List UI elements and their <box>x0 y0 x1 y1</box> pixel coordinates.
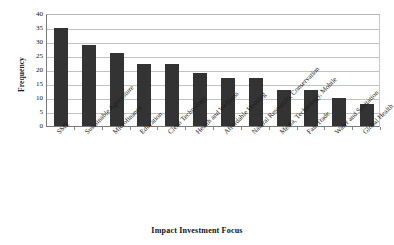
x-tick-mark <box>130 127 131 130</box>
x-tick-mark <box>380 127 381 130</box>
bar[interactable] <box>165 64 179 126</box>
x-tick-mark <box>157 127 158 130</box>
y-tick-label: 5 <box>25 109 43 116</box>
y-tick-label: 40 <box>25 11 43 18</box>
bar[interactable] <box>82 45 96 126</box>
y-tick-label: 35 <box>25 25 43 32</box>
y-tick-label: 15 <box>25 81 43 88</box>
x-tick-mark <box>297 127 298 130</box>
y-tick-label: 10 <box>25 95 43 102</box>
x-tick-mark <box>324 127 325 130</box>
y-tick-label: 30 <box>25 39 43 46</box>
x-tick-mark <box>241 127 242 130</box>
bar-chart-figure: Frequency SMESustainable AgricultureMicr… <box>0 0 394 245</box>
x-tick-mark <box>74 127 75 130</box>
x-tick-mark <box>352 127 353 130</box>
x-tick-mark <box>213 127 214 130</box>
bar[interactable] <box>137 64 151 126</box>
bar[interactable] <box>54 28 68 126</box>
x-axis-title: Impact Investment Focus <box>0 226 394 235</box>
y-tick-label: 25 <box>25 53 43 60</box>
y-tick-label: 20 <box>25 67 43 74</box>
y-tick-label: 0 <box>25 123 43 130</box>
bar[interactable] <box>110 53 124 126</box>
x-tick-mark <box>185 127 186 130</box>
x-tick-mark <box>269 127 270 130</box>
bars-layer <box>47 14 379 126</box>
x-tick-mark <box>102 127 103 130</box>
